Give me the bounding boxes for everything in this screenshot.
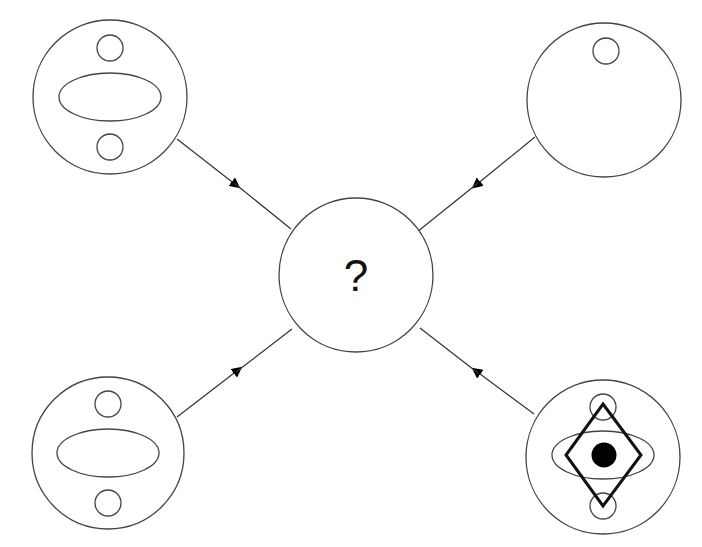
edge-bottom-left [177, 329, 292, 417]
ellipse-icon [59, 73, 161, 121]
edge-top-left [177, 139, 291, 229]
node-bottom-left [32, 377, 184, 529]
node-top-right [527, 23, 681, 177]
small-circle-icon [97, 134, 123, 160]
node-bottom-right [526, 380, 680, 534]
small-circle-icon [593, 38, 619, 64]
node-center: ? [279, 198, 433, 352]
filled-dot-icon [592, 443, 617, 468]
node-top-left [33, 20, 187, 174]
question-mark: ? [344, 251, 368, 300]
edge-bottom-right [420, 328, 534, 414]
edge-top-right [417, 137, 535, 232]
diagram-canvas: ? [0, 0, 702, 547]
small-circle-icon [95, 391, 121, 417]
small-circle-icon [97, 35, 123, 61]
small-circle-icon [95, 490, 121, 516]
ellipse-icon [57, 429, 159, 477]
